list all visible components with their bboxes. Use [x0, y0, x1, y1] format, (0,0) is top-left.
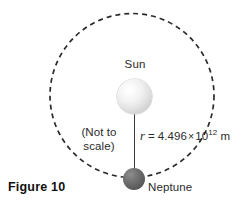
radius-equation: r=4.496×1012m — [140, 129, 230, 143]
not-to-scale-line-1: (Not to — [68, 126, 130, 140]
equation-symbol-r: r — [140, 129, 145, 143]
equation-base: 10 — [195, 130, 208, 142]
equation-times-sign: × — [188, 130, 194, 142]
neptune-label: Neptune — [148, 181, 192, 194]
figure-diagram: Sun Neptune (Not to scale) r=4.496×1012m… — [0, 0, 249, 210]
equation-equals: = — [148, 130, 155, 142]
figure-caption: Figure 10 — [8, 180, 65, 194]
equation-mantissa: 4.496 — [158, 130, 187, 142]
equation-exponent: 12 — [208, 128, 217, 137]
not-to-scale-line-2: scale) — [68, 140, 130, 154]
not-to-scale-note: (Not to scale) — [68, 126, 130, 153]
equation-unit: m — [220, 130, 230, 142]
sun-sphere — [117, 79, 152, 114]
neptune-sphere — [123, 168, 145, 190]
sun-label: Sun — [105, 58, 165, 71]
